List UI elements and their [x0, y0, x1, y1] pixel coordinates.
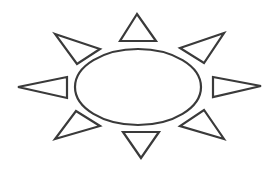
sun-drawing — [0, 0, 274, 175]
background — [0, 0, 274, 175]
